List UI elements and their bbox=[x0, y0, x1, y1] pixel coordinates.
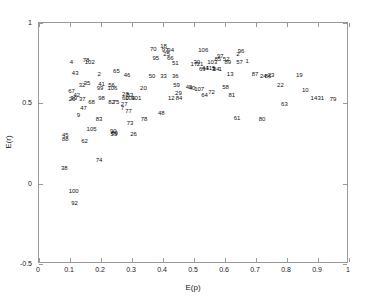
data-point-label: 33 bbox=[160, 73, 167, 79]
data-point-label: 102 bbox=[85, 59, 95, 65]
x-tick-label: 0 bbox=[36, 266, 40, 273]
data-point-label: 92 bbox=[71, 200, 78, 206]
data-point-label: 36 bbox=[172, 73, 179, 79]
data-point-label: 70 bbox=[150, 46, 157, 52]
x-tick bbox=[349, 258, 350, 262]
x-tick-top bbox=[287, 23, 288, 27]
data-point-label: 47 bbox=[80, 105, 87, 111]
data-point-label: 63 bbox=[281, 101, 288, 107]
x-tick bbox=[132, 258, 133, 262]
data-point-label: 14 bbox=[311, 95, 318, 101]
y-tick-right bbox=[343, 264, 347, 265]
data-point-label: 51 bbox=[172, 60, 179, 66]
x-tick-top bbox=[318, 23, 319, 27]
data-point-label: 32 bbox=[79, 82, 86, 88]
y-tick-right bbox=[343, 184, 347, 185]
data-point-label: 88 bbox=[62, 136, 69, 142]
x-tick-top bbox=[194, 23, 195, 27]
x-tick-label: 0.3 bbox=[126, 266, 136, 273]
x-tick-label: 0.9 bbox=[312, 266, 322, 273]
y-tick-label: 1 bbox=[0, 19, 32, 26]
data-point-label: 99 bbox=[97, 85, 104, 91]
data-point-label: 48 bbox=[158, 110, 165, 116]
data-point-label: 43 bbox=[72, 70, 79, 76]
x-tick-label: 0.4 bbox=[157, 266, 167, 273]
x-tick bbox=[225, 258, 226, 262]
data-point-label: 10 bbox=[302, 87, 309, 93]
y-tick-label: -0.5 bbox=[0, 260, 32, 267]
y-tick bbox=[39, 264, 43, 265]
x-tick-top bbox=[225, 23, 226, 27]
data-point-label: 74 bbox=[96, 157, 103, 163]
data-point-label: 23 bbox=[268, 72, 275, 78]
x-tick-top bbox=[256, 23, 257, 27]
data-point-label: 1 bbox=[246, 58, 249, 64]
data-point-label: 101 bbox=[131, 95, 141, 101]
data-point-label: 1 bbox=[219, 66, 222, 72]
data-point-label: 26 bbox=[69, 96, 76, 102]
data-point-label: 89 bbox=[224, 59, 231, 65]
x-tick bbox=[256, 258, 257, 262]
data-point-label: 13 bbox=[227, 71, 234, 77]
data-point-label: 81 bbox=[228, 92, 235, 98]
data-point-label: 65 bbox=[113, 68, 120, 74]
data-point-label: 107 bbox=[194, 86, 204, 92]
x-tick-top bbox=[349, 23, 350, 27]
data-point-label: 75 bbox=[113, 99, 120, 105]
y-tick bbox=[39, 184, 43, 185]
x-tick bbox=[70, 258, 71, 262]
x-tick bbox=[101, 258, 102, 262]
x-tick bbox=[318, 258, 319, 262]
scatter-plot-figure: 00.10.20.30.40.50.60.70.80.91-0.500.51 1… bbox=[0, 0, 371, 298]
data-point-label: 100 bbox=[69, 188, 79, 194]
y-tick-right bbox=[343, 23, 347, 24]
data-point-label: 95 bbox=[152, 55, 159, 61]
data-point-label: 87 bbox=[252, 71, 259, 77]
data-point-label: 2 bbox=[97, 71, 100, 77]
data-point-label: 58 bbox=[222, 84, 229, 90]
y-tick bbox=[39, 103, 43, 104]
data-point-label: 31 bbox=[317, 95, 324, 101]
data-point-label: 26 bbox=[130, 131, 137, 137]
data-point-label: 50 bbox=[149, 73, 156, 79]
data-point-label: 77 bbox=[125, 108, 132, 114]
data-point-label: 79 bbox=[330, 96, 337, 102]
y-axis-title: E(r) bbox=[4, 135, 13, 148]
data-point-label: 61 bbox=[234, 115, 241, 121]
x-tick-label: 0.8 bbox=[281, 266, 291, 273]
data-point-label: 78 bbox=[141, 116, 148, 122]
data-point-label: 37 bbox=[79, 96, 86, 102]
data-point-label: 106 bbox=[107, 85, 117, 91]
x-tick-label: 0.7 bbox=[250, 266, 260, 273]
y-tick-label: 0 bbox=[0, 179, 32, 186]
x-tick-label: 0.2 bbox=[95, 266, 105, 273]
data-point-label: 106 bbox=[198, 47, 208, 53]
x-tick-top bbox=[101, 23, 102, 27]
data-point-label: 55 bbox=[111, 131, 118, 137]
data-point-label: 73 bbox=[127, 120, 134, 126]
x-tick-label: 0.1 bbox=[64, 266, 74, 273]
data-point-label: 105 bbox=[87, 126, 97, 132]
x-tick-label: 0.5 bbox=[188, 266, 198, 273]
x-tick bbox=[39, 258, 40, 262]
data-point-label: 2 bbox=[236, 51, 239, 57]
data-point-label: 62 bbox=[81, 138, 88, 144]
data-point-label: 84 bbox=[176, 95, 183, 101]
x-tick-top bbox=[163, 23, 164, 27]
data-point-label: 68 bbox=[88, 99, 95, 105]
y-tick bbox=[39, 23, 43, 24]
x-tick-label: 1 bbox=[346, 266, 350, 273]
x-axis-title: E(p) bbox=[185, 283, 200, 292]
data-point-label: 12 bbox=[168, 95, 175, 101]
data-point-label: 64 bbox=[201, 92, 208, 98]
x-tick bbox=[194, 258, 195, 262]
data-point-label: 57 bbox=[236, 59, 243, 65]
y-tick-label: 0.5 bbox=[0, 99, 32, 106]
data-point-label: 9 bbox=[77, 112, 80, 118]
data-point-label: 4 bbox=[70, 59, 73, 65]
x-tick bbox=[163, 258, 164, 262]
data-point-label: 38 bbox=[61, 165, 68, 171]
data-point-label: 98 bbox=[98, 95, 105, 101]
data-point-label: 83 bbox=[96, 116, 103, 122]
y-tick-right bbox=[343, 103, 347, 104]
